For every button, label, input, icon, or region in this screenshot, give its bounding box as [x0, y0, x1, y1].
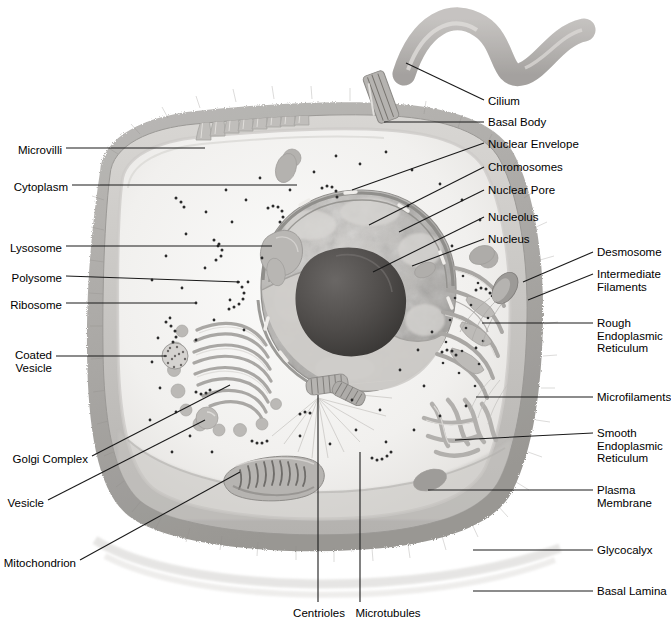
label-mitochondrion: Mitochondrion [0, 557, 76, 570]
label-polysome: Polysome [0, 272, 62, 285]
label-basal-body: Basal Body [488, 116, 546, 129]
label-golgi-complex: Golgi Complex [0, 453, 88, 466]
label-cytoplasm: Cytoplasm [0, 181, 68, 194]
label-smooth-er: Smooth Endoplasmic Reticulum [597, 427, 663, 465]
cilium [404, 19, 584, 75]
label-microvilli: Microvilli [0, 144, 62, 157]
label-rough-er: Rough Endoplasmic Reticulum [597, 317, 663, 355]
label-nuclear-envelope: Nuclear Envelope [488, 138, 579, 151]
label-nucleolus: Nucleolus [488, 211, 539, 224]
label-nucleus: Nucleus [488, 233, 530, 246]
label-chromosomes: Chromosomes [488, 161, 563, 174]
label-basal-lamina: Basal Lamina [597, 585, 667, 598]
label-ribosome: Ribosome [0, 299, 62, 312]
label-lysosome: Lysosome [0, 242, 62, 255]
label-microfilaments: Microfilaments [597, 391, 671, 404]
label-intermediate-filaments: Intermediate Filaments [597, 268, 661, 293]
label-desmosome: Desmosome [597, 246, 662, 259]
label-coated-vesicle: Coated Vesicle [0, 349, 52, 374]
label-nuclear-pore: Nuclear Pore [488, 184, 555, 197]
label-cilium: Cilium [488, 95, 520, 108]
label-microtubules: Microtubules [345, 607, 431, 620]
label-plasma-membrane: Plasma Membrane [597, 484, 652, 509]
leader-cilium [406, 63, 484, 100]
label-vesicle: Vesicle [0, 497, 44, 510]
label-glycocalyx: Glycocalyx [597, 544, 653, 557]
